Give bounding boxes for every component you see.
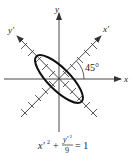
angle-arc	[77, 61, 84, 79]
y-prime-axis	[17, 36, 97, 117]
equation-frac-num-exp: 2	[70, 134, 73, 139]
equation-plus: +	[53, 140, 59, 151]
y-axis-label: y	[54, 4, 59, 14]
equation: x′ 2 + y′ 2 9 = 1	[37, 134, 88, 155]
rotated-ellipse-diagram: y x x′ y′ 45° x′ 2 + y′ 2 9 = 1	[0, 0, 131, 156]
x-prime-axis-label: x′	[102, 24, 110, 34]
equation-equals: = 1	[75, 140, 88, 151]
x-prime-axis	[21, 36, 101, 117]
x-axis-label: x	[123, 74, 128, 84]
equation-frac-den: 9	[65, 146, 69, 155]
equation-term1: x′	[37, 140, 45, 151]
equation-frac-num: y′	[62, 135, 69, 144]
y-prime-axis-label: y′	[7, 25, 15, 35]
equation-term1-exp: 2	[47, 139, 50, 145]
angle-label: 45°	[85, 62, 99, 73]
